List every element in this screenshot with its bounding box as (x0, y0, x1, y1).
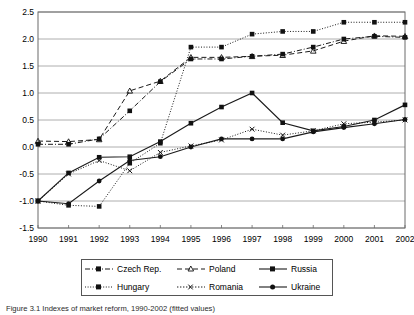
data-point-marker (280, 137, 285, 142)
data-point-marker (372, 20, 377, 25)
chart-legend: Czech Rep. Poland Russia (81, 259, 333, 296)
legend-label-czech-rep: Czech Rep. (117, 264, 161, 274)
data-point-marker (372, 121, 377, 126)
data-point-marker (219, 137, 224, 142)
data-point-marker (311, 129, 316, 134)
legend-item-poland: Poland (176, 264, 258, 274)
data-point-marker (127, 168, 132, 173)
series-line-hungary (38, 22, 405, 206)
x-axis-tick-label: 1991 (59, 234, 78, 244)
data-point-marker (36, 142, 41, 147)
x-axis-tick-label: 2002 (396, 234, 414, 244)
data-point-marker (97, 155, 102, 160)
y-axis-tick-label: 0.5 (22, 115, 34, 125)
data-point-marker (189, 45, 194, 50)
legend-label-romania: Romania (209, 282, 243, 292)
legend-item-hungary: Hungary (84, 282, 176, 292)
legend-item-czech-rep: Czech Rep. (84, 264, 176, 274)
data-point-marker (403, 103, 408, 108)
y-axis-tick-label: 2.5 (22, 7, 34, 17)
series-line-czech-rep (38, 36, 405, 144)
y-axis-tick-label: -1.5 (19, 223, 34, 233)
data-point-marker (189, 121, 194, 126)
legend-item-romania: Romania (176, 282, 258, 292)
x-axis-tick-label: 1995 (181, 234, 200, 244)
figure-root: -1.5-1.0-0.50.00.51.01.52.02.51990199119… (0, 0, 414, 315)
data-point-marker (250, 32, 255, 37)
legend-swatch-ukraine (258, 282, 288, 292)
data-point-marker (341, 125, 346, 130)
data-point-marker (36, 199, 41, 204)
y-axis-tick-label: 2.0 (22, 34, 34, 44)
series-line-ukraine (38, 119, 405, 203)
x-axis-tick-label: 1992 (90, 234, 109, 244)
data-point-marker (219, 45, 224, 50)
y-axis-tick-label: 1.5 (22, 61, 34, 71)
data-point-marker (158, 154, 163, 159)
legend-label-russia: Russia (291, 264, 317, 274)
legend-item-russia: Russia (258, 264, 334, 274)
figure-caption: Figure 3.1 Indexes of market reform, 199… (6, 304, 408, 313)
x-axis-tick-label: 1990 (29, 234, 48, 244)
x-axis-tick-label: 2000 (334, 234, 353, 244)
legend-swatch-poland (176, 264, 206, 274)
x-axis-tick-label: 1994 (151, 234, 170, 244)
data-point-marker (97, 204, 102, 209)
data-point-marker (66, 201, 71, 206)
y-axis-tick-label: -1.0 (19, 196, 34, 206)
x-axis-tick-label: 2001 (365, 234, 384, 244)
legend-label-ukraine: Ukraine (291, 282, 320, 292)
legend-swatch-hungary (84, 282, 114, 292)
legend-swatch-russia (258, 264, 288, 274)
data-point-marker (250, 127, 255, 132)
data-point-marker (127, 109, 132, 114)
legend-item-ukraine: Ukraine (258, 282, 334, 292)
legend-label-poland: Poland (209, 264, 235, 274)
data-point-marker (311, 29, 316, 34)
data-point-marker (280, 29, 285, 34)
x-axis-tick-label: 1993 (120, 234, 139, 244)
line-chart-svg: -1.5-1.0-0.50.00.51.01.52.02.51990199119… (0, 0, 414, 250)
x-axis-tick-label: 1997 (243, 234, 262, 244)
legend-swatch-czech-rep (84, 264, 114, 274)
data-point-marker (219, 105, 224, 110)
x-axis-tick-label: 1998 (273, 234, 292, 244)
data-point-marker (403, 20, 408, 25)
y-axis-tick-label: 1.0 (22, 88, 34, 98)
data-point-marker (250, 91, 255, 96)
legend-swatch-romania (176, 282, 206, 292)
data-point-marker (97, 179, 102, 184)
y-axis-tick-label: 0.0 (22, 142, 34, 152)
data-point-marker (127, 158, 132, 163)
data-point-marker (250, 137, 255, 142)
x-axis-tick-label: 1996 (212, 234, 231, 244)
chart-plot-area: -1.5-1.0-0.50.00.51.01.52.02.51990199119… (0, 0, 414, 250)
data-point-marker (342, 20, 347, 25)
legend-label-hungary: Hungary (117, 282, 149, 292)
data-point-marker (280, 120, 285, 125)
data-point-marker (158, 139, 163, 144)
data-point-marker (66, 171, 71, 176)
data-point-marker (189, 145, 194, 150)
legend-grid: Czech Rep. Poland Russia (82, 260, 332, 295)
x-axis-tick-label: 1999 (304, 234, 323, 244)
y-axis-tick-label: -0.5 (19, 169, 34, 179)
data-point-marker (403, 117, 408, 122)
